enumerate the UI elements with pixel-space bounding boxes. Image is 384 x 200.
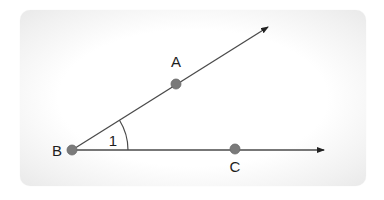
label-c: C <box>230 158 241 175</box>
diagram-stage: A B C 1 <box>0 0 384 200</box>
point-c <box>230 144 240 154</box>
point-b <box>67 145 77 155</box>
point-a <box>171 79 181 89</box>
label-b: B <box>52 142 62 159</box>
angle-1-label: 1 <box>109 132 117 149</box>
label-a: A <box>171 53 181 70</box>
angle-1-arc <box>120 120 129 150</box>
ray-ba <box>72 27 268 150</box>
angle-diagram: A B C 1 <box>0 0 384 200</box>
